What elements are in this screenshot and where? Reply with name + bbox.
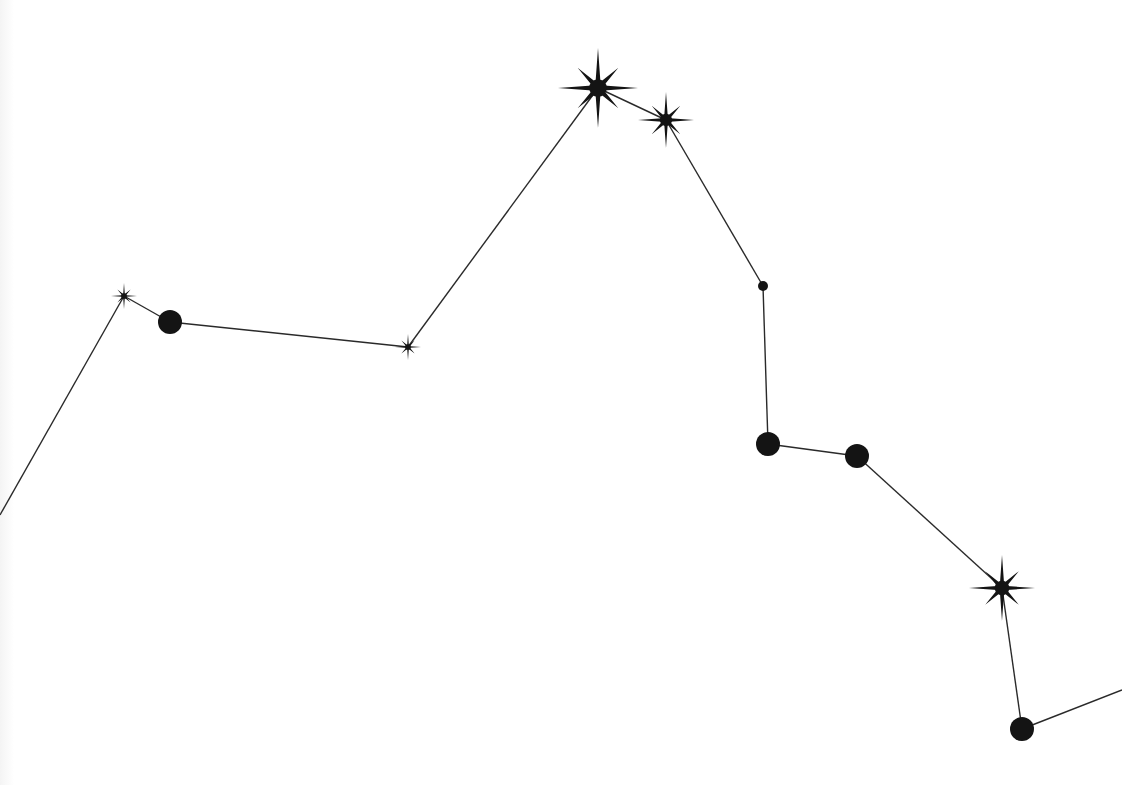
connector-line [666,120,763,286]
star-core [660,114,672,126]
connector-line [857,456,1002,588]
star-core [995,581,1010,596]
connector-line [598,88,666,120]
circle-marker [1010,717,1034,741]
circle-marker [845,444,869,468]
connector-line [1022,690,1122,729]
constellation-figure [0,0,1122,785]
constellation-canvas [0,0,1122,785]
connector-line [768,444,857,456]
connector-line [170,322,408,347]
star-markers [111,48,1035,741]
connector-line [763,286,768,444]
connector-line [408,88,598,347]
circle-marker [756,432,780,456]
star-core [405,344,411,350]
star-core [589,79,607,97]
connector-line [0,296,124,515]
connector-lines [0,88,1122,729]
star-core [121,293,127,299]
connector-line [1002,588,1022,729]
circle-marker [758,281,768,291]
circle-marker [158,310,182,334]
